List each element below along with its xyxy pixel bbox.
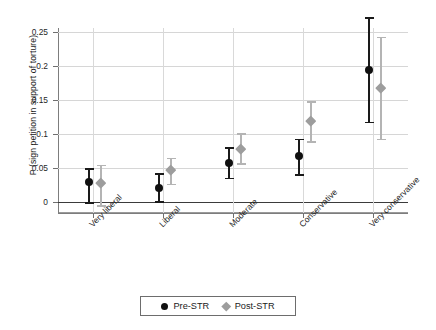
data-point-pre-str	[295, 152, 303, 160]
y-axis-tick	[53, 134, 58, 135]
error-bar-cap	[307, 141, 316, 143]
error-bar-cap	[377, 37, 386, 39]
y-axis-tick	[53, 66, 58, 67]
y-axis-tick	[53, 202, 58, 203]
error-bar-cap	[295, 139, 304, 141]
error-bar-cap	[237, 133, 246, 135]
error-bar-cap	[155, 173, 164, 175]
legend-label-post-str: Post-STR	[235, 301, 275, 311]
error-bar-cap	[97, 165, 106, 167]
gridline-vertical	[233, 28, 234, 213]
y-axis-tick-label: 0.15	[8, 95, 48, 105]
diamond-marker-icon	[222, 301, 231, 310]
error-bar-cap	[365, 122, 374, 124]
gridline-vertical	[93, 28, 94, 213]
y-axis-tick-label: 0.25	[8, 27, 48, 37]
y-axis-tick	[53, 168, 58, 169]
chart-root: P (sign petition in support of torture) …	[0, 0, 436, 330]
error-bar-cap	[237, 163, 246, 165]
error-bar-cap	[167, 158, 176, 160]
legend-item-pre-str: Pre-STR	[161, 301, 209, 311]
y-axis-tick-label: 0.2	[8, 61, 48, 71]
error-bar-cap	[167, 184, 176, 186]
chart-legend: Pre-STR Post-STR	[140, 296, 296, 316]
y-axis-tick-label: 0.05	[8, 163, 48, 173]
error-bar-cap	[365, 17, 374, 19]
y-axis-tick-label: 0	[8, 197, 48, 207]
y-axis-line	[58, 28, 59, 213]
y-axis-tick	[53, 32, 58, 33]
y-axis-tick-label: 0.1	[8, 129, 48, 139]
legend-label-pre-str: Pre-STR	[173, 301, 209, 311]
error-bar-cap	[225, 178, 234, 180]
gridline-vertical	[303, 28, 304, 213]
error-bar-cap	[295, 174, 304, 176]
error-bar-cap	[155, 201, 164, 203]
data-point-pre-str	[155, 184, 163, 192]
circle-marker-icon	[161, 303, 168, 310]
error-bar-cap	[85, 202, 94, 204]
error-bar-cap	[225, 147, 234, 149]
gridline-vertical	[163, 28, 164, 213]
error-bar-cap	[377, 139, 386, 141]
gridline-vertical	[373, 28, 374, 213]
error-bar-cap	[307, 101, 316, 103]
y-axis-tick	[53, 100, 58, 101]
error-bar-cap	[85, 168, 94, 170]
legend-item-post-str: Post-STR	[223, 301, 274, 311]
error-bar-cap	[97, 205, 106, 207]
